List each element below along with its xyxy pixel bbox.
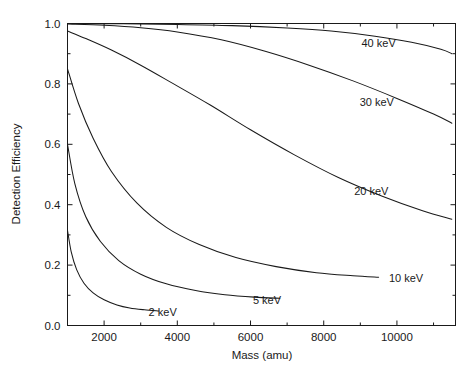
- series-label-40-kev: 40 keV: [362, 37, 397, 49]
- data-curves: [68, 24, 452, 312]
- x-tick-label: 10000: [381, 331, 413, 343]
- curve-2-kev: [68, 230, 160, 311]
- y-tick-label: 0.2: [45, 259, 61, 271]
- y-axis-title: Detection Efficiency: [10, 123, 22, 224]
- x-tick-label: 4000: [165, 331, 191, 343]
- curve-10-kev: [68, 69, 379, 277]
- series-label-2-kev: 2 keV: [149, 306, 178, 318]
- series-label-10-kev: 10 keV: [389, 272, 424, 284]
- detection-efficiency-plot: 200040006000800010000 0.00.20.40.60.81.0…: [0, 0, 476, 379]
- x-tick-label: 8000: [311, 331, 337, 343]
- series-label-5-kev: 5 keV: [253, 294, 282, 306]
- x-tick-labels: 200040006000800010000: [91, 331, 413, 343]
- y-tick-label: 0.6: [45, 138, 61, 150]
- curve-5-kev: [68, 144, 280, 298]
- y-tick-labels: 0.00.20.40.60.81.0: [45, 18, 62, 332]
- y-tick-label: 1.0: [45, 18, 61, 30]
- y-tick-label: 0.0: [45, 320, 61, 332]
- x-axis-title: Mass (amu): [232, 349, 293, 361]
- x-tick-label: 6000: [238, 331, 264, 343]
- series-label-20-kev: 20 keV: [354, 185, 389, 197]
- chart-figure: 200040006000800010000 0.00.20.40.60.81.0…: [0, 0, 476, 379]
- y-tick-label: 0.8: [45, 78, 61, 90]
- series-label-30-kev: 30 keV: [360, 96, 395, 108]
- series-labels: 2 keV5 keV10 keV20 keV30 keV40 keV: [149, 37, 424, 318]
- curve-20-kev: [68, 31, 452, 219]
- y-tick-label: 0.4: [45, 199, 62, 211]
- x-tick-label: 2000: [91, 331, 117, 343]
